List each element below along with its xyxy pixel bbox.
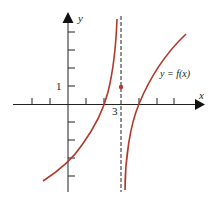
function-graph: y x 1 3 y = f(x) (0, 0, 215, 204)
curve-right-branch (125, 34, 186, 190)
isolated-point (119, 85, 123, 89)
curve-left-branch (43, 19, 117, 181)
curve-label: y = f(x) (159, 68, 191, 80)
x-ticks (32, 98, 174, 105)
y-tick-label-1: 1 (56, 80, 62, 92)
y-axis-arrow-icon (63, 12, 74, 23)
x-axis-label: x (198, 89, 204, 101)
x-tick-label-3: 3 (112, 105, 118, 117)
y-axis-label: y (77, 12, 83, 24)
